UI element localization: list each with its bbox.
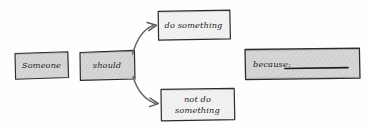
sketch-layer [0,0,368,125]
node-because[interactable] [245,48,360,79]
node-should[interactable] [80,50,135,80]
node-do-something[interactable] [158,10,230,40]
connector-branch-down [133,77,158,107]
node-not-do-something[interactable] [161,88,235,120]
node-someone[interactable] [15,52,69,79]
diagram-canvas: Someone should do something not do somet… [0,0,368,125]
connector-branch-up [133,23,157,55]
because-blank-line [285,68,348,69]
